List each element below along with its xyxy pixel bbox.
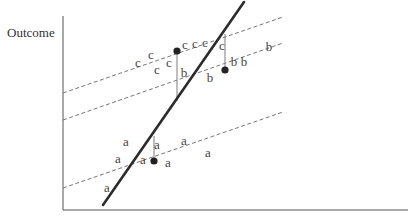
group-line-a [63,112,283,188]
data-point-a: a [123,134,129,149]
data-point-c: c [182,37,188,52]
data-points: aaaaaaaabbbbbcccccccc [104,35,272,195]
mean-dot-b [221,66,228,73]
data-point-c: c [166,55,172,70]
data-point-b: b [266,39,273,54]
data-point-b: b [241,54,248,69]
data-point-a: a [205,145,211,160]
data-point-c: c [202,35,208,50]
overall-line-layer [103,2,244,205]
data-point-a: a [140,152,146,167]
residual-lines [154,34,225,161]
data-point-b: b [181,65,188,80]
data-point-c: c [219,38,225,53]
y-axis-label: Outcome [7,25,55,40]
data-point-c: c [154,62,160,77]
data-point-a: a [115,151,121,166]
mean-dot-c [173,47,180,54]
data-point-a: a [154,137,160,152]
data-point-a: a [165,155,171,170]
mean-dot-a [150,157,157,164]
data-point-c: c [135,55,141,70]
data-point-b: b [207,70,214,85]
data-point-a: a [104,180,110,195]
data-point-c: c [148,47,154,62]
regression-diagram: Outcome aaaaaaaabbbbbcccccccc [0,0,408,223]
overall-regression-line [103,2,244,205]
data-point-c: c [192,36,198,51]
data-point-a: a [181,133,187,148]
mean-dots [150,47,228,164]
data-point-b: b [231,54,238,69]
